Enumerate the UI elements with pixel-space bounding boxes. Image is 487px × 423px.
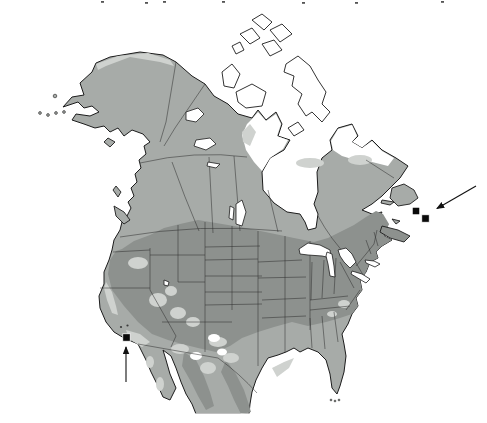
banks-island xyxy=(222,64,240,88)
record-speck xyxy=(126,324,128,326)
kodiak-island xyxy=(104,138,115,147)
florida-key-1 xyxy=(330,399,332,401)
light-patch-utah xyxy=(170,307,186,319)
light-patch-nevada-2 xyxy=(165,286,177,296)
light-patch-oregon xyxy=(128,257,148,269)
florida-key-3 xyxy=(338,399,340,401)
st-lawrence-island xyxy=(53,94,57,98)
clipped-text-mark xyxy=(222,1,225,3)
figure-distribution-map xyxy=(0,0,487,423)
light-fringe-quebec xyxy=(348,155,372,165)
north-america-map xyxy=(0,0,487,423)
aleutian-island-1 xyxy=(39,112,42,115)
florida-key-2 xyxy=(334,400,336,402)
southampton-island xyxy=(288,122,304,136)
light-patch-durango xyxy=(200,362,216,374)
record-square-atlantic-record-2 xyxy=(422,215,430,223)
clipped-header-text-fragments xyxy=(101,1,444,4)
light-fringe-ontario xyxy=(296,158,324,168)
clipped-text-mark xyxy=(355,2,358,4)
record-square-atlantic-record-1 xyxy=(412,207,420,215)
light-patch-baja-2 xyxy=(156,377,164,391)
record-speck xyxy=(120,326,122,328)
white-patch-chihuahua-3 xyxy=(208,334,220,342)
clipped-text-mark xyxy=(163,1,166,3)
map-bottom-crop xyxy=(140,413,340,423)
victoria-island xyxy=(236,84,266,108)
light-patch-baja-1 xyxy=(146,356,154,368)
aleutian-island-2 xyxy=(47,114,50,117)
prince-edward-island xyxy=(392,219,400,224)
newfoundland xyxy=(390,184,418,206)
haida-gwaii xyxy=(113,186,121,197)
aleutian-island-3 xyxy=(55,112,58,115)
arrow-atlantic xyxy=(437,186,476,209)
baffin-island xyxy=(284,56,330,122)
clipped-text-mark xyxy=(441,1,444,3)
record-square-california-record xyxy=(123,334,131,342)
clipped-text-mark xyxy=(101,1,104,3)
light-patch-nevada-1 xyxy=(149,293,167,307)
aleutian-island-4 xyxy=(63,111,66,114)
anticosti-island xyxy=(381,200,394,205)
light-patch-texas-coast xyxy=(272,358,294,377)
light-patch-carolina-2 xyxy=(327,311,337,317)
lake-winnipegosis xyxy=(229,206,234,220)
white-patch-chihuahua-2 xyxy=(217,349,227,356)
clipped-text-mark xyxy=(145,2,148,4)
clipped-text-mark xyxy=(302,2,305,4)
